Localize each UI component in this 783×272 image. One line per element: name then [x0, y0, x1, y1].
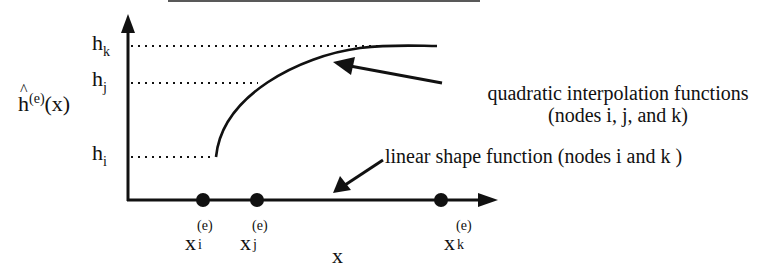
label-hj: hj [92, 68, 107, 95]
quadratic-arrowhead-icon [333, 57, 355, 75]
hj-sub: j [103, 80, 107, 95]
xi-sub: i [198, 238, 202, 252]
label-xi: x(e)i [185, 228, 220, 254]
xj-sub: j [253, 238, 257, 252]
y-label-sup: (e) [29, 91, 45, 106]
node-j [250, 193, 264, 207]
label-xj: x(e)j [240, 228, 275, 254]
quadratic-annotation-line1: quadratic interpolation functions [458, 82, 778, 104]
linear-arrow [345, 160, 383, 185]
hi-base: h [92, 140, 103, 165]
xi-base: x [185, 230, 196, 255]
hj-base: h [92, 66, 103, 91]
label-xk: x(e)k [444, 228, 479, 254]
xj-base: x [240, 230, 251, 255]
linear-annotation: linear shape function (nodes i and k ) [385, 146, 682, 166]
xi-sup: (e) [197, 219, 213, 233]
xj-sup: (e) [252, 219, 268, 233]
xk-base: x [444, 230, 455, 255]
node-i [196, 193, 210, 207]
node-k [434, 193, 448, 207]
label-hi: hi [92, 142, 107, 169]
label-hk: hk [92, 32, 110, 59]
x-axis-arrow-icon [478, 193, 498, 207]
hi-sub: i [103, 154, 107, 169]
y-axis-arrow-icon [121, 14, 135, 33]
quadratic-annotation: quadratic interpolation functions (nodes… [458, 82, 778, 126]
y-label-base: h [18, 93, 29, 115]
xk-sup: (e) [456, 219, 472, 233]
x-axis-label: x [332, 245, 343, 267]
quadratic-annotation-line2: (nodes i, j, and k) [458, 104, 778, 126]
quadratic-arrow [350, 66, 442, 83]
hk-base: h [92, 30, 103, 55]
y-axis-label: h(e)(x) [18, 92, 70, 115]
xk-sub: k [457, 238, 464, 252]
hk-sub: k [103, 44, 110, 59]
y-label-arg: (x) [45, 91, 71, 116]
diagram-canvas [0, 0, 783, 272]
quadratic-curve [216, 46, 437, 158]
